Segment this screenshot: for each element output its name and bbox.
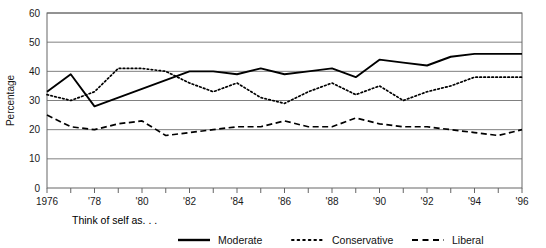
x-tick-label: '96 xyxy=(515,196,528,207)
y-axis-label: Percentage xyxy=(5,74,16,126)
y-tick-label: 60 xyxy=(29,8,41,19)
x-tick-label: '82 xyxy=(183,196,196,207)
y-tick-label: 10 xyxy=(29,153,41,164)
y-tick-label: 50 xyxy=(29,37,41,48)
x-tick-label: '78 xyxy=(88,196,101,207)
data-series-group xyxy=(47,54,522,136)
caption-prefix-label: Think of self as. . . xyxy=(72,214,157,226)
x-tick-label: 1976 xyxy=(36,196,59,207)
y-tick-label: 30 xyxy=(29,95,41,106)
x-tick-label: '92 xyxy=(420,196,433,207)
y-tick-labels: 0102030405060 xyxy=(29,8,41,194)
legend: ModerateConservativeLiberal xyxy=(178,234,484,246)
x-tick-label: '84 xyxy=(230,196,243,207)
y-axis-label-text: Percentage xyxy=(5,74,16,126)
y-tick-label: 40 xyxy=(29,66,41,77)
x-tick-label: '80 xyxy=(135,196,148,207)
legend-label-liberal: Liberal xyxy=(452,234,484,246)
y-tick-label: 0 xyxy=(34,183,40,194)
legend-label-conservative: Conservative xyxy=(332,234,393,246)
x-tick-labels: 1976'78'80'82'84'86'88'90'92'94'96 xyxy=(36,196,529,207)
x-tick-label: '88 xyxy=(325,196,338,207)
x-tick-marks xyxy=(47,188,522,193)
chart-caption: Think of self as. . . xyxy=(72,214,157,226)
line-chart: 0102030405060 1976'78'80'82'84'86'88'90'… xyxy=(0,0,546,248)
y-tick-label: 20 xyxy=(29,124,41,135)
x-tick-label: '86 xyxy=(278,196,291,207)
chart-container: 0102030405060 1976'78'80'82'84'86'88'90'… xyxy=(0,0,546,248)
series-line-liberal xyxy=(47,115,522,135)
x-tick-label: '94 xyxy=(468,196,481,207)
legend-label-moderate: Moderate xyxy=(218,234,263,246)
x-tick-label: '90 xyxy=(373,196,386,207)
series-line-moderate xyxy=(47,54,522,107)
